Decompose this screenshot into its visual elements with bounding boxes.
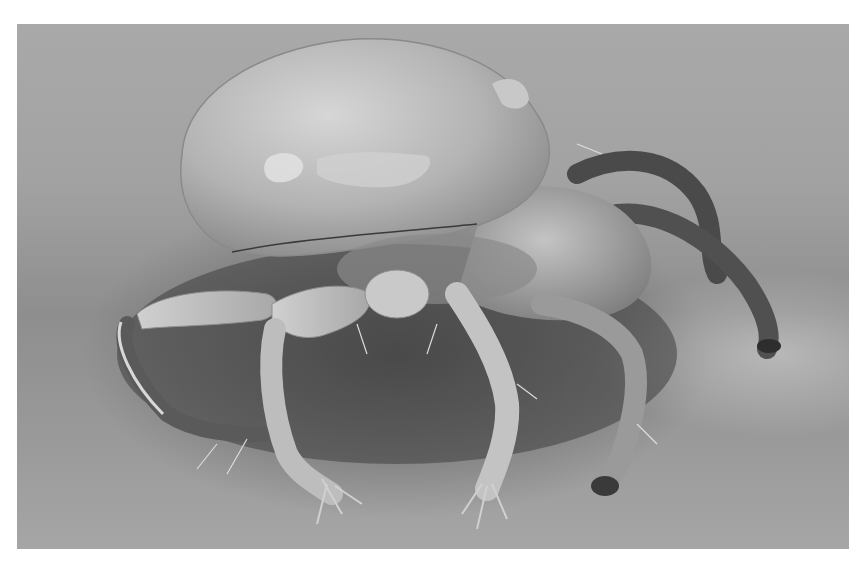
leg-right-foot — [591, 476, 619, 496]
back-leg-foot — [757, 339, 781, 353]
sem-micrograph — [17, 24, 849, 549]
leg-second-joint — [365, 270, 429, 318]
mite-illustration — [17, 24, 849, 549]
